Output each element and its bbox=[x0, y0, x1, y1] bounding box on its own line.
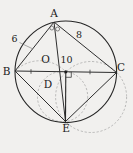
label-length-AB: 6 bbox=[11, 33, 17, 44]
label-point-E: E bbox=[62, 122, 70, 134]
side-AC bbox=[54, 22, 117, 73]
equal-angle-ring-left-icon bbox=[50, 26, 54, 30]
chord-BE bbox=[15, 71, 66, 122]
equal-angle-ring-right-icon bbox=[56, 27, 60, 31]
label-point-B: B bbox=[3, 65, 11, 77]
label-center-O: O bbox=[41, 53, 50, 65]
center-dot-O bbox=[64, 70, 67, 73]
geometry-figure: A B C D E O 6 8 10 bbox=[0, 0, 133, 153]
chord-CE bbox=[66, 73, 117, 122]
diagram-canvas: A B C D E O 6 8 10 bbox=[0, 0, 133, 153]
label-length-BC: 10 bbox=[60, 54, 72, 65]
label-point-A: A bbox=[49, 7, 58, 19]
label-point-D: D bbox=[44, 78, 52, 90]
label-point-C: C bbox=[117, 61, 125, 73]
label-length-AC: 8 bbox=[76, 29, 82, 40]
